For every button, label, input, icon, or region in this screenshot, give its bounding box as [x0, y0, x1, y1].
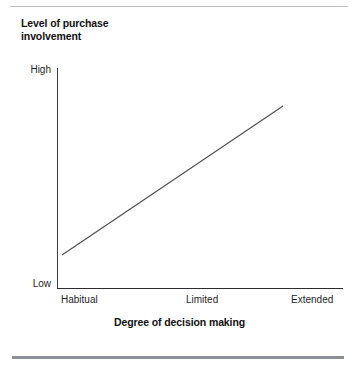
x-axis-title: Degree of decision making: [0, 316, 359, 328]
x-axis-tick-habitual: Habitual: [61, 294, 98, 306]
y-axis-label-low: Low: [5, 278, 51, 290]
x-axis-tick-limited: Limited: [186, 294, 218, 306]
plot-area: High Low Habitual Limited Extended Degre…: [0, 0, 359, 371]
trend-line: [62, 106, 283, 255]
y-axis-label-high: High: [5, 64, 51, 76]
x-axis-tick-extended: Extended: [291, 294, 333, 306]
bottom-divider-rule: [12, 356, 344, 359]
